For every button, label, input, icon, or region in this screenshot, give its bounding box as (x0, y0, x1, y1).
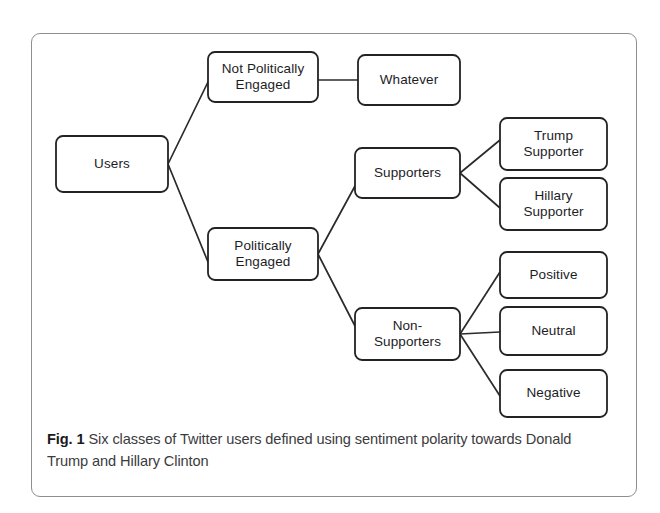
node-label-trump-supporter: Supporter (523, 144, 584, 159)
node-label-positive: Positive (529, 267, 577, 282)
figure-caption: Fig. 1 Six classes of Twitter users defi… (47, 428, 587, 472)
node-non-supporters: Non-Supporters (355, 308, 460, 360)
figure-number: Fig. 1 (47, 431, 85, 447)
node-label-non-supporters: Supporters (374, 334, 441, 349)
node-not-politically-engaged: Not PoliticallyEngaged (208, 52, 318, 102)
node-label-supporters: Supporters (374, 165, 441, 180)
node-label-not-politically-engaged: Engaged (236, 77, 291, 92)
edge-non-supporters-to-positive (460, 272, 500, 334)
node-label-hillary-supporter: Hillary (534, 188, 572, 203)
node-label-politically-engaged: Engaged (236, 254, 291, 269)
node-whatever: Whatever (358, 55, 460, 105)
node-users: Users (56, 136, 168, 192)
node-label-whatever: Whatever (380, 72, 439, 87)
figure-page: UsersNot PoliticallyEngagedWhateverPolit… (0, 0, 660, 513)
diagram-nodes: UsersNot PoliticallyEngagedWhateverPolit… (56, 52, 607, 417)
edge-non-supporters-to-negative (460, 334, 500, 396)
node-positive: Positive (500, 252, 607, 298)
node-label-trump-supporter: Trump (534, 128, 573, 143)
edge-users-to-not-politically-engaged (168, 82, 208, 164)
node-label-users: Users (94, 156, 130, 171)
edge-politically-engaged-to-non-supporters (318, 254, 355, 326)
node-label-politically-engaged: Politically (234, 238, 292, 253)
node-label-non-supporters: Non- (393, 318, 423, 333)
node-label-neutral: Neutral (531, 323, 575, 338)
figure-caption-text: Six classes of Twitter users defined usi… (47, 431, 571, 469)
node-negative: Negative (500, 370, 607, 417)
node-neutral: Neutral (500, 307, 607, 355)
node-supporters: Supporters (355, 148, 460, 198)
node-trump-supporter: TrumpSupporter (500, 118, 607, 170)
edge-non-supporters-to-neutral (460, 332, 500, 334)
node-politically-engaged: PoliticallyEngaged (208, 228, 318, 280)
edge-users-to-politically-engaged (168, 164, 208, 262)
edge-supporters-to-hillary-supporter (460, 173, 500, 208)
node-hillary-supporter: HillarySupporter (500, 178, 607, 230)
edge-politically-engaged-to-supporters (318, 186, 355, 254)
node-label-hillary-supporter: Supporter (523, 204, 584, 219)
node-label-not-politically-engaged: Not Politically (222, 61, 305, 76)
edge-supporters-to-trump-supporter (460, 140, 500, 173)
node-label-negative: Negative (526, 385, 580, 400)
